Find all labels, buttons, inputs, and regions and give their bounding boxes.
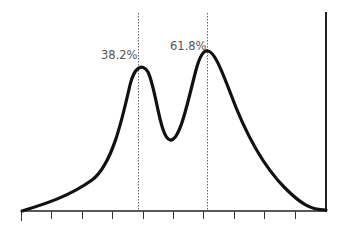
bimodal-chart: 38.2% 61.8%	[0, 0, 342, 229]
x-axis-ticks	[22, 211, 296, 221]
label-38-2: 38.2%	[101, 48, 138, 62]
label-61-8: 61.8%	[170, 39, 207, 53]
density-curve	[22, 51, 326, 211]
